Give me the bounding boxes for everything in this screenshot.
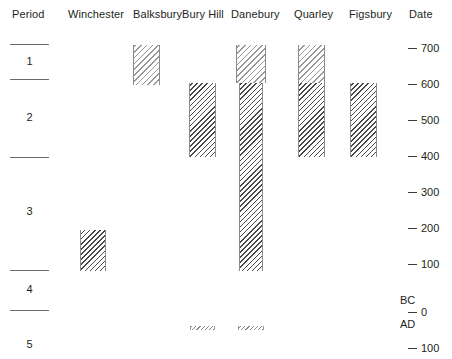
bar-edge bbox=[159, 45, 160, 85]
bar-edge bbox=[324, 45, 325, 83]
axis-tick-label-600: 600 bbox=[421, 78, 439, 90]
bar-edge bbox=[298, 83, 299, 157]
axis-tick-label-100bc: 100 bbox=[421, 258, 439, 270]
axis-tick-label-0: 0 bbox=[421, 306, 427, 318]
bar-figsbury bbox=[350, 83, 377, 157]
axis-tick-300 bbox=[408, 192, 417, 193]
era-label-bc: BC bbox=[400, 294, 415, 306]
axis-tick-600 bbox=[408, 84, 417, 85]
bar-quarley-main bbox=[298, 83, 325, 157]
bar-edge bbox=[105, 230, 106, 271]
axis-tick-label-200: 200 bbox=[421, 222, 439, 234]
period-label-3: 3 bbox=[10, 205, 49, 218]
bar-edge bbox=[298, 45, 299, 83]
bar-edge bbox=[133, 45, 134, 85]
column-header-period: Period bbox=[12, 8, 44, 21]
bar-edge bbox=[324, 83, 325, 157]
axis-tick-0 bbox=[408, 312, 417, 313]
axis-tick-400 bbox=[408, 156, 417, 157]
bar-edge bbox=[239, 83, 240, 271]
period-divider bbox=[10, 157, 49, 158]
column-header-quarley: Quarley bbox=[294, 8, 333, 21]
period-divider bbox=[10, 270, 49, 271]
bar-edge bbox=[376, 83, 377, 157]
period-label-2: 2 bbox=[10, 111, 49, 124]
bar-winchester bbox=[80, 230, 106, 271]
bar-edge bbox=[80, 230, 81, 271]
axis-tick-label-300: 300 bbox=[421, 186, 439, 198]
period-divider bbox=[10, 310, 49, 311]
bar-edge bbox=[265, 45, 266, 83]
bar-danebury-main bbox=[239, 83, 263, 271]
period-label-4: 4 bbox=[10, 283, 49, 296]
sliver-bury-hill-late bbox=[190, 326, 215, 330]
axis-tick-200 bbox=[408, 228, 417, 229]
axis-tick-label-400: 400 bbox=[421, 150, 439, 162]
sliver-danebury-late bbox=[238, 326, 264, 330]
axis-tick-500 bbox=[408, 120, 417, 121]
period-label-5: 5 bbox=[10, 338, 49, 351]
axis-tick-700 bbox=[408, 48, 417, 49]
bar-edge bbox=[189, 83, 190, 157]
axis-tick-label-500: 500 bbox=[421, 114, 439, 126]
chronology-chart: Period Winchester Balksbury Bury Hill Da… bbox=[0, 0, 452, 359]
column-header-winchester: Winchester bbox=[68, 8, 124, 21]
axis-tick-100ad bbox=[408, 348, 417, 349]
bar-quarley-early bbox=[298, 45, 325, 83]
era-label-ad: AD bbox=[400, 318, 415, 330]
bar-edge bbox=[236, 45, 237, 83]
column-header-date: Date bbox=[409, 8, 433, 21]
bar-balksbury bbox=[133, 45, 160, 85]
axis-tick-label-100ad: 100 bbox=[421, 342, 439, 354]
bar-danebury-early bbox=[236, 45, 266, 83]
column-header-bury-hill: Bury Hill bbox=[182, 8, 224, 21]
column-header-figsbury: Figsbury bbox=[349, 8, 392, 21]
bar-bury-hill bbox=[189, 83, 216, 157]
period-label-1: 1 bbox=[10, 55, 49, 68]
column-header-balksbury: Balksbury bbox=[133, 8, 182, 21]
axis-tick-label-700: 700 bbox=[421, 42, 439, 54]
axis-tick-100bc bbox=[408, 264, 417, 265]
bar-edge bbox=[215, 83, 216, 157]
period-divider bbox=[10, 44, 49, 45]
bar-edge bbox=[350, 83, 351, 157]
period-divider bbox=[10, 79, 49, 80]
column-header-danebury: Danebury bbox=[231, 8, 280, 21]
bar-edge bbox=[262, 83, 263, 271]
